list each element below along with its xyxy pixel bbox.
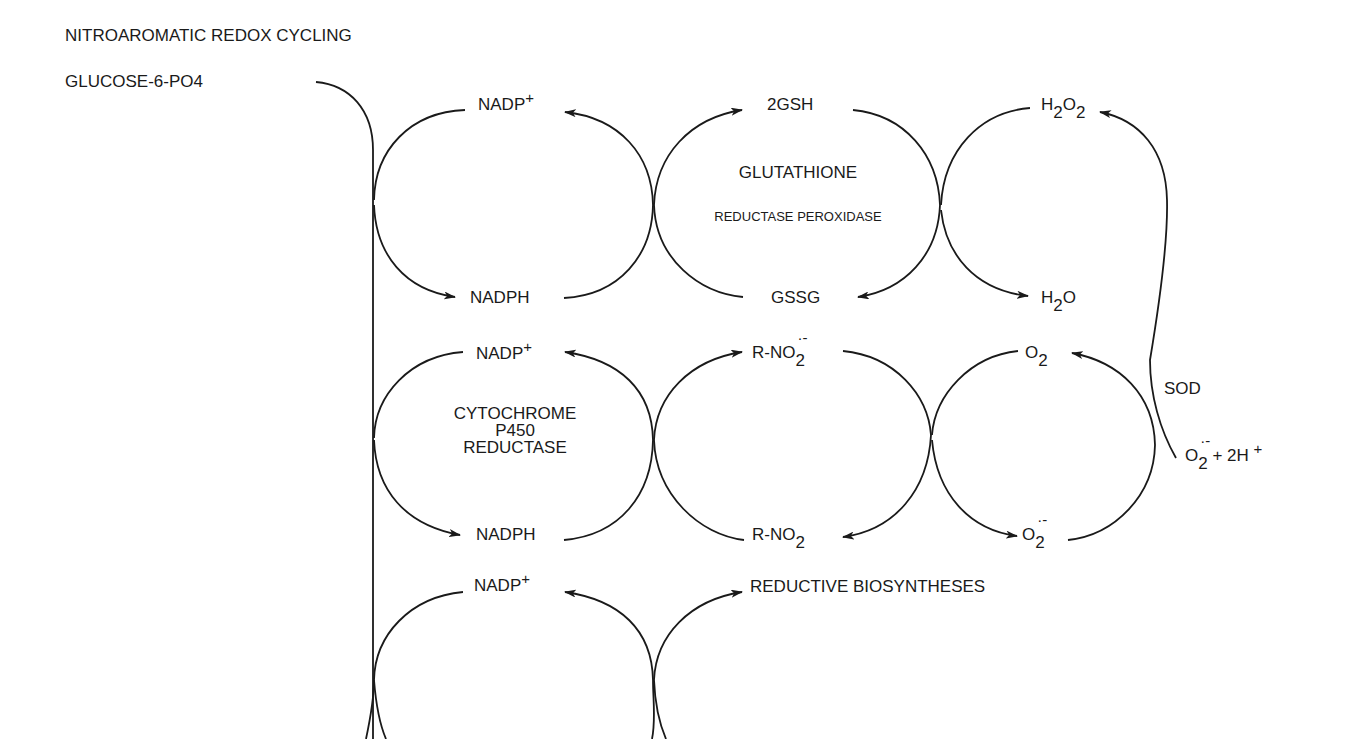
row1-left-arc-bottom [374, 205, 455, 297]
row2-mid-arc-left-down [654, 440, 744, 540]
h2o2-label: H2O2 [1041, 96, 1085, 113]
nitro-anion-radical-label: R-NO2·- [752, 344, 805, 361]
row3-left-right-arc [565, 592, 654, 739]
enzyme-line-2: P450 [425, 422, 605, 439]
row1-right-arc-bottom [941, 210, 1028, 296]
row3-nadp-plus-label: NADP+ [474, 577, 530, 594]
row3-mid-arc-down [654, 680, 666, 739]
row1-left-right-arc [564, 112, 653, 298]
row2-right-outer-arc [1068, 353, 1155, 540]
reductase-peroxidase-label: REDUCTASE PEROXIDASE [708, 208, 888, 225]
sod-label: SOD [1164, 380, 1201, 397]
superoxide-protons-label: O2·- + 2H + [1185, 447, 1262, 464]
glucose-feed-line [316, 82, 373, 739]
row1-left-arc-top [374, 110, 465, 200]
enzyme-line-3: REDUCTASE [425, 439, 605, 456]
row3-mid-arc-up [654, 592, 742, 680]
glucose-6-po4-label: GLUCOSE-6-PO4 [65, 73, 203, 90]
h2o-label: H2O [1041, 289, 1076, 306]
row1-nadp-plus-label: NADP+ [478, 96, 534, 113]
superoxide-label: O2·- [1022, 526, 1045, 543]
row2-mid-arc-left-up [654, 352, 742, 440]
row2-right-arc-top [932, 351, 1018, 435]
row1-right-arc-top [941, 108, 1030, 205]
nitroaromatic-label: R-NO2 [752, 526, 805, 543]
reductive-biosyntheses-label: REDUCTIVE BIOSYNTHESES [750, 578, 985, 595]
row3-left-inner [374, 680, 386, 739]
enzyme-line-1: CYTOCHROME [425, 405, 605, 422]
pathway-diagram [0, 0, 1351, 739]
row1-mid-arc-left-up [654, 110, 742, 205]
gsh-label: 2GSH [767, 96, 813, 113]
diagram-title: NITROAROMATIC REDOX CYCLING [65, 27, 352, 44]
row3-left-arc-top [366, 592, 463, 739]
row2-right-arc-bottom [932, 440, 1017, 536]
row1-mid-arc-right [853, 110, 940, 297]
row2-nadph-label: NADPH [476, 526, 536, 543]
gssg-label: GSSG [771, 289, 820, 306]
row2-nadp-plus-label: NADP+ [476, 345, 532, 362]
sod-curve [1100, 112, 1176, 458]
oxygen-label: O2 [1025, 344, 1048, 361]
glutathione-enzyme-label: GLUTATHIONE [718, 164, 878, 181]
row1-nadph-label: NADPH [470, 289, 530, 306]
cytochrome-p450-reductase-label: CYTOCHROME P450 REDUCTASE [425, 405, 605, 456]
row2-mid-arc-right [843, 351, 931, 537]
